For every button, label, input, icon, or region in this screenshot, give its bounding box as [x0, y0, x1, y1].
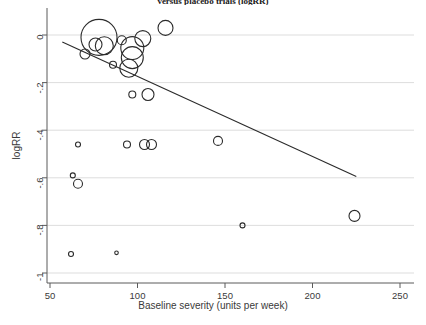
bubble-point[interactable] [74, 179, 83, 188]
x-axis-title: Baseline severity (units per week) [0, 300, 426, 311]
y-tick-label: 0 [34, 35, 45, 71]
bubble-point[interactable] [349, 210, 360, 221]
bubble-point[interactable] [121, 37, 144, 60]
bubble-point[interactable] [158, 20, 173, 35]
bubble-scatter-figure: versus placebo trials (logRR) Baseline s… [0, 0, 426, 325]
bubble-point[interactable] [95, 37, 113, 55]
bubble-point[interactable] [121, 47, 143, 69]
x-tick-label: 250 [380, 290, 420, 301]
y-axis-title: logRR [11, 116, 22, 176]
bubble-point[interactable] [69, 252, 74, 257]
bubble-point[interactable] [214, 136, 223, 145]
gridlines [47, 35, 414, 273]
bubble-point[interactable] [129, 91, 136, 98]
axes [47, 8, 414, 283]
y-tick-label: -.2 [34, 82, 45, 118]
tick-marks [42, 35, 400, 288]
x-tick-label: 50 [30, 290, 70, 301]
bubble-point[interactable] [76, 142, 81, 147]
data-points [69, 19, 361, 256]
bubble-point[interactable] [124, 141, 131, 148]
bubble-point[interactable] [70, 173, 75, 178]
x-tick-label: 150 [205, 290, 245, 301]
y-tick-label: -.8 [34, 225, 45, 261]
x-tick-label: 100 [118, 290, 158, 301]
y-tick-label: -.4 [34, 130, 45, 166]
x-tick-label: 200 [293, 290, 333, 301]
bubble-point[interactable] [115, 251, 119, 255]
y-tick-label: -.6 [34, 177, 45, 213]
bubble-point[interactable] [142, 89, 154, 101]
regression-line [62, 42, 356, 177]
plot-canvas [0, 0, 426, 325]
bubble-point[interactable] [147, 140, 157, 150]
